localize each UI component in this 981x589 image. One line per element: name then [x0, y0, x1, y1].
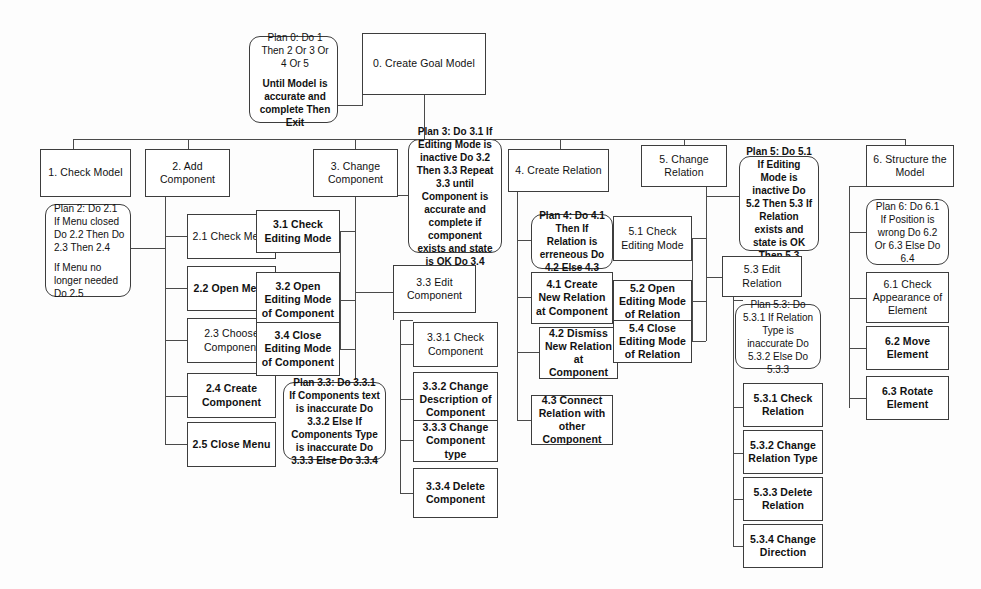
plan-2-line1: Plan 2: Do 2.1 If Menu closed Do 2.2 The… [54, 202, 125, 254]
connector-plan5 [706, 196, 739, 197]
connector-33-2 [400, 399, 413, 400]
node-5-3-edit-relation[interactable]: 5.3 Edit Relation [722, 256, 802, 297]
connector-33-1 [400, 344, 413, 345]
connector-spine-53 [733, 300, 734, 546]
node-1-check-model[interactable]: 1. Check Model [40, 149, 131, 197]
plan-3-3[interactable]: Plan 3.3: Do 3.3.1 If Components text is… [283, 382, 386, 460]
node-5-change-relation[interactable]: 5. Change Relation [641, 145, 727, 187]
connector-spine-6 [849, 186, 850, 408]
connector-plan2 [131, 248, 165, 249]
node-3-3-2-change-description-of-component[interactable]: 3.3.2 Change Description of Component [413, 372, 498, 427]
node-5-2-open-editing-mode-of-relation[interactable]: 5.2 Open Editing Mode of Relation [613, 280, 692, 323]
connector-6-1 [849, 298, 866, 299]
node-6-2-move-element[interactable]: 6.2 Move Element [866, 326, 949, 370]
connector-5-3edit [706, 277, 722, 278]
plan-3[interactable]: Plan 3: Do 3.1 If Editing Mode is inacti… [408, 139, 502, 253]
node-5-1-check-editing-mode[interactable]: 5.1 Check Editing Mode [613, 216, 692, 261]
connector-4-3 [517, 420, 531, 421]
node-5-4-close-editing-mode-of-relation[interactable]: 5.4 Close Editing Mode of Relation [613, 320, 692, 363]
node-5-3-4-change-direction[interactable]: 5.3.4 Change Direction [743, 524, 823, 568]
connector-2-2 [165, 288, 187, 289]
node-root-create-goal-model[interactable]: 0. Create Goal Model [362, 33, 486, 95]
node-5-3-2-change-relation-type[interactable]: 5.3.2 Change Relation Type [743, 430, 823, 474]
connector-53-4 [733, 546, 743, 547]
connector-drop-2 [188, 139, 189, 149]
connector-53-1 [733, 407, 743, 408]
connector-4-2 [517, 352, 539, 353]
node-2-4-create-component[interactable]: 2.4 Create Component [187, 373, 276, 418]
connector-plan6 [849, 232, 866, 233]
node-6-1-check-appearance-of-element[interactable]: 6.1 Check Appearance of Element [866, 272, 949, 323]
node-3-1-check-editing-mode[interactable]: 3.1 Check Editing Mode [256, 210, 340, 253]
node-3-2-open-editing-mode-of-component[interactable]: 3.2 Open Editing Mode of Component [256, 272, 340, 328]
connector-6-3 [849, 398, 866, 399]
connector-spine-3 [355, 186, 356, 380]
plan-2-line2: If Menu no longer needed Do 2.5 [54, 261, 125, 300]
connector-2-1 [165, 236, 187, 237]
node-3-change-component[interactable]: 3. Change Component [313, 149, 398, 197]
node-5-3-1-check-relation[interactable]: 5.3.1 Check Relation [743, 383, 823, 427]
connector-3-1 [340, 231, 355, 232]
node-3-4-close-editing-mode-of-component[interactable]: 3.4 Close Editing Mode of Component [256, 322, 340, 376]
plan-4[interactable]: Plan 4: Do 4.1 Then If Relation is erren… [531, 214, 613, 269]
connector-53-3 [733, 499, 743, 500]
connector-spine-5 [706, 186, 707, 341]
node-3-3-3-change-component-type[interactable]: 3.3.3 Change Component type [413, 420, 498, 462]
connector-3-3edit [355, 292, 393, 293]
node-6-3-rotate-element[interactable]: 6.3 Rotate Element [866, 376, 949, 420]
plan-5[interactable]: Plan 5: Do 5.1 If Editing Mode is inacti… [739, 156, 819, 251]
node-4-3-connect-relation-with-other-component[interactable]: 4.3 Connect Relation with other Componen… [531, 395, 613, 445]
plan-0-line2: Until Model is accurate and complete The… [258, 77, 332, 129]
connector-5-2 [692, 301, 706, 302]
connector-spine-33 [400, 320, 401, 493]
connector-drop-4 [560, 139, 561, 149]
connector-plan0 [338, 105, 362, 106]
plan-5-3[interactable]: Plan 5.3: Do 5.3.1 If Relation Type is i… [735, 304, 821, 369]
plan-0[interactable]: Plan 0: Do 1 Then 2 Or 3 Or 4 Or 5 Until… [249, 36, 338, 123]
connector-53-2 [733, 453, 743, 454]
node-2-5-close-menu[interactable]: 2.5 Close Menu [187, 422, 276, 467]
node-4-1-create-new-relation-at-component[interactable]: 4.1 Create New Relation at Component [531, 272, 613, 324]
connector-spine-2 [165, 186, 166, 444]
connector-plan4 [517, 240, 531, 241]
node-3-3-4-delete-component[interactable]: 3.3.4 Delete Component [413, 468, 498, 518]
connector-6-2 [849, 348, 866, 349]
connector-5-left-spine [692, 238, 693, 341]
plan-2[interactable]: Plan 2: Do 2.1 If Menu closed Do 2.2 The… [45, 204, 131, 297]
plan-0-line1: Plan 0: Do 1 Then 2 Or 3 Or 4 Or 5 [258, 31, 332, 70]
connector-5-4 [692, 341, 706, 342]
connector-4-1 [517, 297, 531, 298]
node-3-3-edit-component[interactable]: 3.3 Edit Component [393, 265, 476, 313]
connector-33-3 [400, 440, 413, 441]
node-4-2-dismiss-new-relation-at-component[interactable]: 4.2 Dismiss New Relation at Component [539, 327, 618, 379]
node-5-3-3-delete-relation[interactable]: 5.3.3 Delete Relation [743, 477, 823, 521]
connector-33-4 [400, 493, 413, 494]
plan-6[interactable]: Plan 6: Do 6.1 If Position is wrong Do 6… [866, 199, 949, 265]
node-2-add-component[interactable]: 2. Add Component [145, 149, 230, 197]
node-3-3-1-check-component[interactable]: 3.3.1 Check Component [413, 322, 498, 367]
node-6-structure-the-model[interactable]: 6. Structure the Model [866, 145, 954, 187]
connector-5-1 [692, 238, 706, 239]
connector-33-top [400, 320, 413, 321]
node-4-create-relation[interactable]: 4. Create Relation [508, 149, 609, 192]
connector-spine-4 [517, 186, 518, 420]
connector-drop-3 [355, 139, 356, 149]
diagram-canvas: 0. Create Goal Model Plan 0: Do 1 Then 2… [0, 0, 981, 589]
connector-3-2 [340, 300, 355, 301]
connector-3-left-spine [340, 231, 341, 349]
connector-3-3 [340, 349, 355, 350]
connector-2-4 [165, 396, 187, 397]
connector-drop-1 [73, 139, 74, 149]
connector-2-3 [165, 340, 187, 341]
connector-2-5 [165, 444, 187, 445]
